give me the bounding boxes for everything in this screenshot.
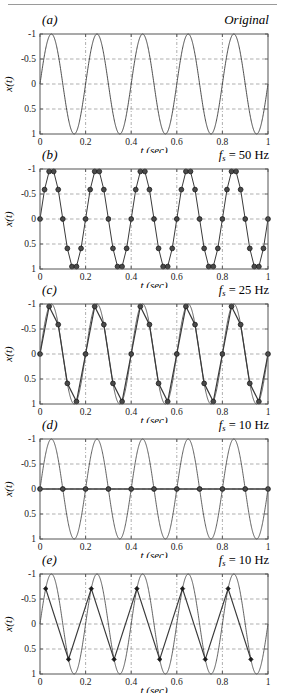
x-tick-label: 0.8 <box>216 407 228 417</box>
y-tick-label: 0.5 <box>24 374 36 384</box>
x-tick-label: 0 <box>38 137 43 147</box>
y-tick-label: 0 <box>31 349 36 359</box>
plot-area: 00.20.40.60.8110.50-0.5-1t (sec)x(t) <box>0 30 281 153</box>
sampling-frequency-value: = 50 Hz <box>226 148 270 162</box>
panel-annotation: fs = 10 Hz <box>219 552 269 571</box>
panel-d: (d)fs = 10 Hz00.20.40.60.8110.50-0.5-1t … <box>0 417 281 558</box>
panel-annotation: Original <box>224 12 269 28</box>
y-axis-title: x(t) <box>2 616 15 633</box>
plot-area: 00.20.40.60.8110.50-0.5-1t (sec)x(t) <box>0 570 281 693</box>
y-tick-label: -1 <box>28 435 36 444</box>
y-tick-label: 0.5 <box>24 239 36 249</box>
y-tick-label: 1 <box>31 399 36 409</box>
panel-annotation: fs = 50 Hz <box>219 147 269 166</box>
panel-header: (e)fs = 10 Hz <box>0 552 281 570</box>
y-tick-label: 1 <box>31 534 36 544</box>
y-tick-label: 0 <box>31 484 36 494</box>
panel-tag: (d) <box>42 417 58 433</box>
y-tick-label: 0 <box>31 619 36 629</box>
y-axis-title: x(t) <box>2 211 15 228</box>
x-tick-label: 0.4 <box>125 677 137 687</box>
panel-c: (c)fs = 25 Hz00.20.40.60.8110.50-0.5-1t … <box>0 282 281 423</box>
y-tick-label: 0.5 <box>24 104 36 114</box>
plot-area: 00.20.40.60.8110.50-0.5-1t (sec)x(t) <box>0 165 281 288</box>
x-tick-label: 0.2 <box>80 542 92 552</box>
x-tick-label: 0 <box>38 677 43 687</box>
sampling-frequency-value: = 25 Hz <box>226 283 270 297</box>
x-tick-label: 0.2 <box>80 272 92 282</box>
y-tick-label: -1 <box>28 30 36 39</box>
panel-b: (b)fs = 50 Hz00.20.40.60.8110.50-0.5-1t … <box>0 147 281 288</box>
panel-header: (b)fs = 50 Hz <box>0 147 281 165</box>
x-axis-title: t (sec) <box>140 684 168 693</box>
y-axis-title: x(t) <box>2 76 15 93</box>
y-axis-title: x(t) <box>2 346 15 363</box>
y-tick-label: 0 <box>31 214 36 224</box>
panel-header: (d)fs = 10 Hz <box>0 417 281 435</box>
figure-canvas: (a)Original00.20.40.60.8110.50-0.5-1t (s… <box>0 0 281 699</box>
x-tick-label: 0.4 <box>125 137 137 147</box>
x-tick-label: 0.6 <box>171 542 183 552</box>
x-tick-label: 0.6 <box>171 137 183 147</box>
y-tick-label: 1 <box>31 264 36 274</box>
x-tick-label: 0.4 <box>125 542 137 552</box>
panel-annotation: fs = 25 Hz <box>219 282 269 301</box>
panel-tag: (e) <box>42 552 57 568</box>
x-tick-label: 0.8 <box>216 677 228 687</box>
x-tick-label: 0.2 <box>80 137 92 147</box>
y-tick-label: -0.5 <box>21 324 36 334</box>
y-tick-label: 1 <box>31 129 36 139</box>
sampling-frequency-value: = 10 Hz <box>226 553 270 567</box>
x-tick-label: 0 <box>38 407 43 417</box>
y-tick-label: -1 <box>28 165 36 174</box>
plot-area: 00.20.40.60.8110.50-0.5-1t (sec)x(t) <box>0 435 281 558</box>
y-tick-label: -1 <box>28 570 36 579</box>
panel-tag: (a) <box>42 12 58 28</box>
y-tick-label: -0.5 <box>21 189 36 199</box>
panel-e: (e)fs = 10 Hz00.20.40.60.8110.50-0.5-1t … <box>0 552 281 693</box>
x-tick-label: 1 <box>266 272 271 282</box>
plot-area: 00.20.40.60.8110.50-0.5-1t (sec)x(t) <box>0 300 281 423</box>
y-tick-label: 0 <box>31 79 36 89</box>
x-tick-label: 0.2 <box>80 407 92 417</box>
panel-header: (c)fs = 25 Hz <box>0 282 281 300</box>
sampling-frequency-value: = 10 Hz <box>226 418 270 432</box>
panel-tag: (c) <box>42 282 57 298</box>
x-tick-label: 1 <box>266 677 271 687</box>
y-axis-title: x(t) <box>2 481 15 498</box>
y-tick-label: -0.5 <box>21 459 36 469</box>
panel-a: (a)Original00.20.40.60.8110.50-0.5-1t (s… <box>0 12 281 153</box>
x-tick-label: 0.8 <box>216 542 228 552</box>
y-tick-label: -0.5 <box>21 54 36 64</box>
y-tick-label: 1 <box>31 669 36 679</box>
x-tick-label: 0.8 <box>216 272 228 282</box>
panel-annotation: fs = 10 Hz <box>219 417 269 436</box>
x-tick-label: 0 <box>38 272 43 282</box>
x-tick-label: 0.6 <box>171 677 183 687</box>
x-tick-label: 1 <box>266 542 271 552</box>
y-tick-label: -0.5 <box>21 594 36 604</box>
panel-header: (a)Original <box>0 12 281 30</box>
x-tick-label: 0 <box>38 542 43 552</box>
y-tick-label: 0.5 <box>24 644 36 654</box>
header-rule <box>8 4 277 5</box>
x-tick-label: 0.6 <box>171 272 183 282</box>
x-tick-label: 0.2 <box>80 677 92 687</box>
x-tick-label: 0.8 <box>216 137 228 147</box>
x-tick-label: 1 <box>266 137 271 147</box>
x-tick-label: 0.4 <box>125 407 137 417</box>
x-tick-label: 0.6 <box>171 407 183 417</box>
y-tick-label: 0.5 <box>24 509 36 519</box>
x-tick-label: 1 <box>266 407 271 417</box>
panel-tag: (b) <box>42 147 58 163</box>
y-tick-label: -1 <box>28 300 36 309</box>
x-tick-label: 0.4 <box>125 272 137 282</box>
